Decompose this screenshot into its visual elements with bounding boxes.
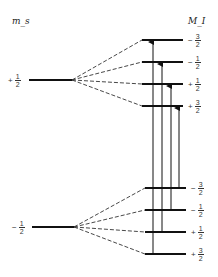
splitting-lines-upper [72, 40, 142, 106]
ms-label-plus-half: + 12 [8, 73, 21, 88]
nuclear-levels-lower [145, 188, 186, 254]
ms-label-minus-half: − 12 [12, 220, 25, 235]
mi-label: +12 [188, 77, 201, 92]
energy-level-diagram [0, 0, 218, 277]
mi-label: +32 [191, 247, 204, 262]
mi-axis-label: M_I [188, 16, 205, 26]
mi-label: +12 [191, 225, 204, 240]
mi-label: −12 [188, 55, 201, 70]
mi-label: −32 [191, 181, 204, 196]
ms-axis-label: m_s [12, 16, 30, 26]
mi-label: −12 [191, 203, 204, 218]
mi-label: −32 [188, 33, 201, 48]
splitting-lines-lower [74, 188, 145, 254]
transition-arrows [153, 42, 179, 254]
mi-label: +32 [188, 99, 201, 114]
